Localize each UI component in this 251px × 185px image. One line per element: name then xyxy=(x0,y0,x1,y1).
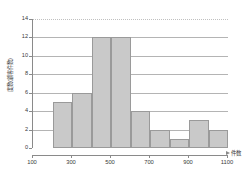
histogram-bar xyxy=(72,93,92,148)
histogram-bar xyxy=(209,130,229,148)
y-tick-mark xyxy=(29,19,32,20)
x-tick-mark xyxy=(149,155,150,158)
y-tick-mark xyxy=(29,74,32,75)
x-tick-label: 100 xyxy=(19,160,45,166)
y-tick-mark xyxy=(29,93,32,94)
x-tick-mark xyxy=(32,155,33,158)
y-axis-title-text: 度数(顧客件数) xyxy=(6,58,14,92)
y-tick-mark xyxy=(29,148,32,149)
y-tick-mark xyxy=(29,37,32,38)
y-tick-label: 0 xyxy=(14,145,28,151)
histogram-bar xyxy=(53,102,73,148)
y-tick-label: 10 xyxy=(14,53,28,59)
histogram-bar xyxy=(131,111,151,148)
x-tick-label: 700 xyxy=(136,160,162,166)
histogram-bar xyxy=(92,37,112,148)
x-tick-label: 1100 xyxy=(214,160,240,166)
histogram-bar xyxy=(150,130,170,148)
histogram-bar xyxy=(111,37,131,148)
x-tick-mark xyxy=(227,155,228,158)
plot-area xyxy=(32,19,228,148)
y-tick-label: 4 xyxy=(14,108,28,114)
x-tick-label: 500 xyxy=(97,160,123,166)
y-tick-label: 2 xyxy=(14,127,28,133)
y-tick-mark xyxy=(29,111,32,112)
histogram-bar xyxy=(189,120,209,148)
x-tick-mark xyxy=(71,155,72,158)
x-tick-label: 300 xyxy=(58,160,84,166)
y-tick-mark xyxy=(29,56,32,57)
y-tick-label: 12 xyxy=(14,34,28,40)
x-tick-label: 900 xyxy=(175,160,201,166)
x-tick-mark xyxy=(188,155,189,158)
x-tick-mark xyxy=(110,155,111,158)
y-tick-label: 6 xyxy=(14,90,28,96)
y-axis-tick-labels: 02468101214 xyxy=(14,0,28,150)
y-tick-mark xyxy=(29,130,32,131)
x-axis-line xyxy=(32,155,228,156)
histogram-chart: 度数(顧客件数) 02468101214 1003005007009001100… xyxy=(0,0,251,185)
histogram-bar xyxy=(170,139,190,148)
y-tick-label: 14 xyxy=(14,16,28,22)
x-axis-title: 件数 xyxy=(231,151,241,156)
bar-series xyxy=(33,19,228,148)
y-tick-label: 8 xyxy=(14,71,28,77)
